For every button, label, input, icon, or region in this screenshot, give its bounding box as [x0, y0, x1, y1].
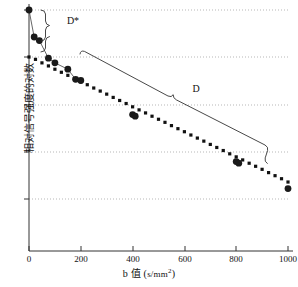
fitted-point: [99, 89, 102, 92]
fitted-point: [241, 158, 244, 161]
fitted-point: [273, 174, 276, 177]
fitted-point: [254, 165, 257, 168]
fitted-point: [267, 171, 270, 174]
x-tick-labels: 0 200 400 600 800 1000: [27, 254, 298, 264]
fitted-point: [40, 61, 43, 64]
gridlines: [29, 10, 290, 199]
measured-point: [64, 66, 71, 73]
x-tick-label-0: 0: [27, 254, 32, 264]
x-tick-label-200: 200: [74, 254, 88, 264]
x-tick-label-1000: 1000: [279, 254, 298, 264]
chart-svg: 0 200 400 600 800 1000 D* D: [0, 0, 298, 287]
fitted-point: [286, 180, 289, 183]
fitted-point: [92, 86, 95, 89]
fitted-point: [209, 143, 212, 146]
measured-point: [45, 55, 52, 62]
fitted-point: [163, 121, 166, 124]
fitted-point: [137, 108, 140, 111]
d-label: D: [192, 83, 199, 94]
x-axis-label-prefix: b 值 (: [123, 268, 147, 279]
measured-point: [132, 113, 139, 120]
measured-series-markers: [26, 7, 292, 192]
measured-point: [235, 160, 242, 167]
fitted-point: [112, 96, 115, 99]
fitted-point: [215, 146, 218, 149]
fitted-point: [228, 152, 231, 155]
fitted-point: [261, 168, 264, 171]
fitted-series-markers: [27, 55, 289, 183]
annotation-d: D: [80, 51, 268, 163]
fitted-point: [176, 127, 179, 130]
fitted-point: [248, 162, 251, 165]
chart-figure: 0 200 400 600 800 1000 D* D: [0, 0, 298, 287]
fitted-point: [202, 140, 205, 143]
fitted-point: [170, 124, 173, 127]
fitted-point: [131, 105, 134, 108]
fitted-point: [222, 149, 225, 152]
fitted-point: [86, 83, 89, 86]
fitted-point: [157, 118, 160, 121]
x-tick-label-400: 400: [126, 254, 140, 264]
fitted-point: [53, 68, 56, 71]
fitted-point: [66, 74, 69, 77]
measured-point: [52, 59, 59, 66]
x-axis-label-unit: s/mm: [147, 269, 168, 279]
y-axis-label: 相对信号强度的对数: [21, 28, 36, 188]
annotation-d-star: D*: [41, 10, 79, 52]
fitted-point: [118, 99, 121, 102]
fitted-point: [280, 177, 283, 180]
fitted-point: [183, 130, 186, 133]
x-axis-label: b 值 (s/mm2): [0, 265, 298, 280]
x-tick-label-800: 800: [229, 254, 243, 264]
measured-point: [77, 77, 84, 84]
fitted-point: [196, 136, 199, 139]
measured-point: [285, 185, 292, 192]
x-tick-label-600: 600: [178, 254, 192, 264]
fitted-point: [235, 155, 238, 158]
x-axis: [29, 246, 293, 251]
fitted-point: [125, 102, 128, 105]
d-brace: [80, 51, 268, 163]
fitted-point: [189, 133, 192, 136]
fitted-point: [144, 111, 147, 114]
fitted-point: [105, 93, 108, 96]
x-axis-label-suffix: ): [172, 268, 176, 279]
measured-point: [26, 7, 33, 14]
fitted-point: [60, 71, 63, 74]
fitted-point: [150, 115, 153, 118]
fitted-point: [47, 64, 50, 67]
d-star-label: D*: [67, 15, 79, 26]
